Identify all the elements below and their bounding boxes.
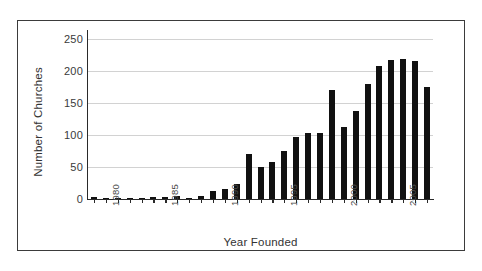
- bar: [341, 127, 347, 199]
- chart-figure: Number of Churches 050100150200250 19801…: [0, 0, 482, 271]
- x-axis-tick: [94, 199, 95, 203]
- y-axis-tick-label: 100: [64, 129, 83, 141]
- x-axis-tick: [403, 199, 404, 203]
- x-axis-tick: [213, 199, 214, 203]
- x-axis-tick: [225, 199, 226, 203]
- x-axis-tick: [308, 199, 309, 203]
- x-axis-tick: [427, 199, 428, 203]
- x-axis-tick-label: 1990: [229, 184, 240, 206]
- bar: [269, 162, 275, 199]
- y-axis-tick-label: 150: [64, 97, 83, 109]
- x-axis-tick: [249, 199, 250, 203]
- bar: [317, 133, 323, 199]
- x-axis-tick: [201, 199, 202, 203]
- bar: [329, 90, 335, 199]
- bar: [424, 87, 430, 199]
- x-axis-tick-label: 1980: [110, 184, 121, 206]
- gridline: [88, 39, 433, 40]
- x-axis-tick: [284, 199, 285, 203]
- x-axis-tick: [142, 199, 143, 203]
- plot-area: [88, 33, 433, 199]
- bar: [365, 84, 371, 199]
- x-axis-tick-label: 1985: [169, 184, 180, 206]
- x-axis-tick: [356, 199, 357, 203]
- bar: [305, 133, 311, 199]
- y-axis-tick-label: 0: [77, 193, 83, 205]
- y-axis-tick-label: 250: [64, 33, 83, 45]
- bar: [246, 154, 252, 199]
- x-axis-tick: [177, 199, 178, 203]
- x-axis-tick: [261, 199, 262, 203]
- y-axis-tick-label: 50: [70, 161, 83, 173]
- x-axis-tick: [296, 199, 297, 203]
- x-axis-tick: [272, 199, 273, 203]
- x-axis-tick: [130, 199, 131, 203]
- y-axis-tick-label: 200: [64, 65, 83, 77]
- bar: [376, 66, 382, 199]
- bar: [258, 167, 264, 199]
- x-axis-tick-label: 1995: [288, 184, 299, 206]
- x-axis-tick: [391, 199, 392, 203]
- bar: [388, 60, 394, 199]
- x-axis-tick: [320, 199, 321, 203]
- x-axis-tick: [332, 199, 333, 203]
- x-axis-tick: [165, 199, 166, 203]
- bar: [412, 61, 418, 199]
- x-axis-tick: [344, 199, 345, 203]
- x-axis-tick-label: 2000: [348, 184, 359, 206]
- x-axis-title: Year Founded: [88, 236, 433, 248]
- bar: [400, 59, 406, 199]
- y-axis-line: [87, 30, 88, 199]
- bar: [281, 151, 287, 199]
- x-axis-tick: [415, 199, 416, 203]
- x-axis-tick: [379, 199, 380, 203]
- x-axis-tick-label: 2005: [407, 184, 418, 206]
- x-axis-tick: [153, 199, 154, 203]
- x-axis-tick: [237, 199, 238, 203]
- y-axis-tick-labels: 050100150200250: [40, 0, 83, 271]
- x-axis-tick: [189, 199, 190, 203]
- x-axis-tick: [368, 199, 369, 203]
- x-axis-tick: [118, 199, 119, 203]
- x-axis-tick: [106, 199, 107, 203]
